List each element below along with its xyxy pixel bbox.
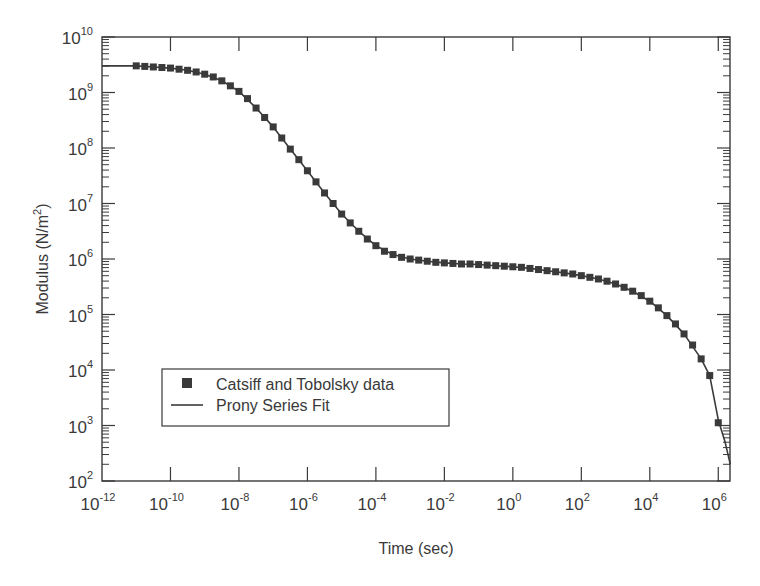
data-point [150, 63, 157, 70]
legend: Catsiff and Tobolsky data Prony Series F… [162, 369, 449, 426]
data-point [424, 258, 431, 265]
data-point [449, 260, 456, 267]
data-point [167, 65, 174, 72]
data-point [218, 77, 225, 84]
y-axis-title: Modulus (N/m2) [31, 203, 51, 314]
data-point [347, 219, 354, 226]
data-point [381, 248, 388, 255]
data-point [492, 262, 499, 269]
x-axis-title: Time (sec) [379, 540, 454, 557]
data-point [715, 419, 722, 426]
data-point [544, 267, 551, 274]
data-point [398, 254, 405, 261]
x-tick-label: 10-12 [81, 491, 116, 514]
legend-label-data: Catsiff and Tobolsky data [216, 376, 394, 393]
data-point [227, 82, 234, 89]
x-tick-label: 10-4 [358, 491, 387, 514]
x-tick-label: 10-10 [149, 491, 184, 514]
data-point [210, 73, 217, 80]
data-point [458, 260, 465, 267]
data-point [552, 268, 559, 275]
data-point [526, 265, 533, 272]
data-point [595, 275, 602, 282]
data-point [467, 260, 474, 267]
data-point [604, 278, 611, 285]
data-point [432, 259, 439, 266]
y-tick-label: 107 [68, 192, 93, 215]
data-point [372, 242, 379, 249]
data-point [295, 156, 302, 163]
data-point [578, 272, 585, 279]
x-tick-label: 102 [565, 491, 590, 514]
x-tick-label: 104 [633, 491, 658, 514]
data-point [621, 284, 628, 291]
data-point [235, 88, 242, 95]
data-point [509, 263, 516, 270]
x-tick-label: 10-6 [289, 491, 318, 514]
data-point [193, 68, 200, 75]
data-point [706, 372, 713, 379]
y-axis-title-main: Modulus (N/m [34, 215, 51, 315]
data-point [261, 114, 268, 121]
y-axis-tick-labels: 1021031041051061071081091010 [62, 25, 93, 492]
data-point [518, 264, 525, 271]
data-point [364, 236, 371, 243]
data-point [698, 355, 705, 362]
data-point [629, 288, 636, 295]
legend-square-marker-icon [182, 378, 192, 388]
data-point [158, 64, 165, 71]
data-point [689, 342, 696, 349]
data-point [184, 67, 191, 74]
data-point [475, 261, 482, 268]
data-point [312, 178, 319, 185]
data-point [304, 167, 311, 174]
data-point [663, 312, 670, 319]
data-point [321, 189, 328, 196]
data-point [638, 292, 645, 299]
data-point [655, 304, 662, 311]
data-point [390, 251, 397, 258]
y-tick-label: 105 [68, 303, 93, 326]
legend-label-fit: Prony Series Fit [216, 397, 330, 414]
y-tick-label: 103 [68, 414, 93, 437]
data-point [407, 256, 414, 263]
x-tick-label: 10-2 [426, 491, 455, 514]
data-point [287, 146, 294, 153]
x-axis-tick-labels: 10-1210-1010-810-610-410-2100102104106 [81, 491, 727, 514]
x-tick-label: 10-8 [221, 491, 250, 514]
data-point [612, 280, 619, 287]
data-point [484, 262, 491, 269]
data-point [278, 135, 285, 142]
x-tick-label: 106 [702, 491, 727, 514]
data-point [672, 320, 679, 327]
data-point [244, 95, 251, 102]
data-point [681, 330, 688, 337]
data-point [561, 269, 568, 276]
data-point [441, 259, 448, 266]
y-tick-label: 102 [68, 469, 93, 492]
y-tick-label: 109 [68, 81, 93, 104]
data-point [133, 62, 140, 69]
data-point [330, 200, 337, 207]
data-point [355, 228, 362, 235]
x-tick-label: 100 [496, 491, 521, 514]
data-point [501, 263, 508, 270]
y-axis-title-end: ) [34, 203, 51, 208]
data-point [270, 123, 277, 130]
data-point [141, 63, 148, 70]
chart-canvas: 1021031041051061071081091010 10-1210-101… [0, 0, 760, 586]
data-point [338, 211, 345, 218]
data-point [415, 257, 422, 264]
data-point [586, 274, 593, 281]
data-point [253, 105, 260, 112]
data-point [646, 298, 653, 305]
data-point [176, 66, 183, 73]
y-tick-label: 1010 [62, 25, 93, 48]
data-point [569, 270, 576, 277]
y-tick-label: 104 [68, 358, 93, 381]
data-point [201, 71, 208, 78]
y-tick-label: 106 [68, 247, 93, 270]
y-tick-label: 108 [68, 136, 93, 159]
data-point [535, 266, 542, 273]
